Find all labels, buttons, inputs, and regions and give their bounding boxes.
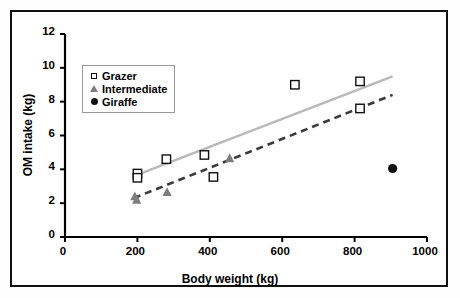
x-tick-label: 400 [188, 245, 228, 257]
data-point-intermediate [225, 153, 234, 162]
y-tick-label: 12 [29, 25, 55, 37]
data-point-grazer [133, 174, 141, 182]
y-tick-label: 10 [29, 59, 55, 71]
open-square-icon [88, 73, 100, 79]
legend-item-giraffe: Giraffe [88, 95, 167, 108]
legend-label-intermediate: Intermediate [100, 83, 167, 95]
filled-triangle-icon [88, 85, 100, 92]
data-point-grazer [209, 173, 217, 181]
y-tick-label: 6 [29, 127, 55, 139]
y-tick-label: 8 [29, 93, 55, 105]
data-point-grazer [356, 104, 364, 112]
chart-legend: Grazer Intermediate Giraffe [82, 65, 175, 113]
x-tick-label: 800 [333, 245, 373, 257]
data-point-grazer [200, 151, 208, 159]
x-tick-label: 0 [43, 245, 83, 257]
legend-label-giraffe: Giraffe [100, 96, 137, 108]
y-tick-label: 2 [29, 194, 55, 206]
data-point-grazer [291, 81, 299, 89]
legend-item-intermediate: Intermediate [88, 82, 167, 95]
x-tick-label: 200 [115, 245, 155, 257]
legend-label-grazer: Grazer [100, 70, 137, 82]
figure-container: Grazer Intermediate Giraffe Body weight … [0, 0, 460, 298]
y-tick-label: 4 [29, 160, 55, 172]
x-axis-title: Body weight (kg) [0, 272, 460, 286]
x-tick-label: 1000 [405, 245, 445, 257]
data-point-grazer [356, 77, 364, 85]
data-point-intermediate [162, 187, 171, 196]
data-point-giraffe [388, 164, 397, 173]
data-point-grazer [162, 155, 170, 163]
y-tick-label: 0 [29, 228, 55, 240]
legend-item-grazer: Grazer [88, 69, 167, 82]
filled-circle-icon [88, 98, 100, 105]
x-tick-label: 600 [260, 245, 300, 257]
